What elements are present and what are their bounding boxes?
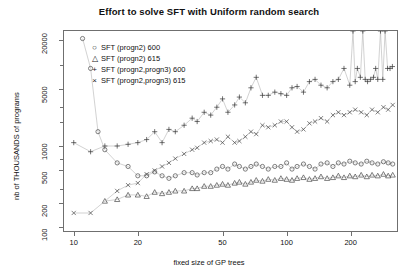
y-tick-label: 20000 [40,33,49,54]
legend-item: ○SFT (progn2) 600 [88,43,186,53]
data-point-cross [182,152,186,156]
chart-legend: ○SFT (progn2) 600△SFT (progn2) 615+SFT (… [88,43,186,87]
chart-title: Effort to solve SFT with Uniform random … [0,6,418,17]
y-tick-mark [59,227,63,228]
data-point-cross [173,156,177,160]
data-point-plus [336,77,341,82]
data-point-plus [373,66,378,71]
data-point-cross [254,132,258,136]
data-point-cross [126,183,130,187]
x-tick-mark [138,232,139,236]
data-point-plus [159,140,164,145]
data-point-plus [173,129,178,134]
legend-label-3: SFT (progn2,progn3) 615 [101,76,186,85]
data-point-cross [353,108,357,112]
data-point-plus [254,75,259,80]
x-tick-mark [351,232,352,236]
y-tick-label: 200 [40,204,49,217]
data-point-plus [278,91,283,96]
data-point-cross [202,141,206,145]
data-point-plus [260,93,265,98]
x-tick-label: 200 [331,238,371,247]
data-point-cross [215,137,219,141]
y-tick-label: 500 [40,172,49,185]
data-point-plus [378,31,383,34]
data-point-plus [220,96,225,101]
y-tick-mark [60,122,63,123]
x-tick-label: 100 [267,238,307,247]
y-tick-mark [60,107,63,108]
legend-symbol-2: + [88,65,101,74]
data-point-plus [166,127,171,132]
data-point-plus [353,79,358,84]
data-point-cross [233,141,237,145]
data-point-cross [220,141,224,145]
data-point-cross [331,113,335,117]
data-point-plus [360,31,365,34]
y-tick-mark [59,203,63,204]
data-point-plus [248,85,253,90]
data-point-cross [190,148,194,152]
data-point-cross [290,125,294,129]
legend-label-1: SFT (progn2) 615 [101,54,160,63]
data-point-plus [88,149,93,154]
y-tick-mark [60,65,63,66]
data-point-plus [71,140,76,145]
y-tick-label: 1000 [40,143,49,160]
data-point-cross [391,103,395,107]
data-point-circle [391,162,395,166]
data-point-cross [319,116,323,120]
data-point-cross [273,123,277,127]
data-point-plus [355,66,360,71]
data-point-plus [135,140,140,145]
data-point-plus [350,31,355,34]
legend-symbol-0: ○ [88,43,101,52]
data-point-plus [125,142,130,147]
data-point-plus [115,143,120,148]
data-point-cross [115,189,119,193]
data-point-plus [307,79,312,84]
data-point-cross [295,130,299,134]
y-tick-label: 100 [40,229,49,242]
data-point-cross [348,110,352,114]
legend-item: ×SFT (progn2,progn3) 615 [88,76,186,86]
data-point-cross [249,130,253,134]
data-point-cross [381,105,385,109]
data-point-cross [325,119,329,123]
data-point-cross [136,181,140,185]
data-point-plus [208,113,213,118]
series-1 [102,172,395,204]
x-tick-mark [287,232,288,236]
data-point-cross [313,119,317,123]
data-point-cross [209,139,213,143]
legend-label-2: SFT (progn2,progn3) 600 [101,65,186,74]
x-tick-label: 20 [118,238,158,247]
x-tick-mark [223,232,224,236]
data-point-cross [386,108,390,112]
y-tick-mark [59,146,63,147]
data-point-cross [336,110,340,114]
data-point-plus [202,110,207,115]
legend-label-0: SFT (progn2) 600 [101,43,160,52]
data-point-cross [266,125,270,129]
data-point-cross [243,135,247,139]
data-point-plus [358,75,363,80]
data-point-plus [266,93,271,98]
y-axis-title: nb of THOUSANDS of programs [12,92,21,200]
data-point-cross [370,108,374,112]
data-point-plus [347,83,352,88]
data-point-cross [167,161,171,165]
y-tick-mark [59,89,63,90]
y-tick-mark [59,170,63,171]
data-point-plus [289,85,294,90]
data-point-plus [284,93,289,98]
series-line [74,105,393,213]
y-tick-mark [60,189,63,190]
data-point-plus [382,31,387,34]
y-tick-mark [60,159,63,160]
series-line [105,174,393,201]
data-point-cross [260,123,264,127]
x-axis-title: fixed size of GP trees [0,258,418,267]
data-point-cross [376,110,380,114]
data-point-plus [380,77,385,82]
